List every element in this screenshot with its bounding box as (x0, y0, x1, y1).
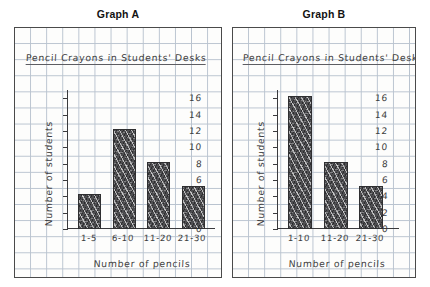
y-tick-mark (63, 180, 68, 181)
y-tick-mark (273, 229, 278, 230)
y-tick-mark (273, 180, 278, 181)
x-tick-label: 21-30 (348, 234, 393, 243)
y-tick-mark (273, 213, 278, 214)
y-tick-mark (63, 147, 68, 148)
y-tick-mark (63, 98, 68, 99)
y-tick-label: 8 (195, 159, 202, 168)
graph-a-y-axis-line (67, 90, 68, 229)
y-tick-mark (273, 196, 278, 197)
graph-b-y-axis-line (277, 90, 278, 229)
graph-b-caption: Graph B (232, 8, 416, 20)
graph-a-y-axis-title: Number of students (43, 121, 54, 227)
bar (78, 194, 101, 229)
y-tick-mark (63, 213, 68, 214)
graph-a-panel: Pencil Crayons in Students' Desks Number… (14, 27, 222, 278)
graph-a-chart-title: Pencil Crayons in Students' Desks (26, 52, 207, 65)
bar (147, 162, 170, 229)
y-tick-label: 12 (375, 126, 388, 135)
y-tick-mark (63, 164, 68, 165)
y-tick-label: 12 (189, 126, 202, 135)
y-tick-label: 6 (381, 175, 388, 184)
y-tick-mark (63, 229, 68, 230)
y-tick-mark (273, 164, 278, 165)
y-tick-mark (63, 131, 68, 132)
worksheet-page: Graph A Pencil Crayons in Students' Desk… (0, 0, 430, 287)
graph-b-plot-area: 02468101214161-1011-2021-30 (277, 90, 395, 229)
y-tick-label: 16 (375, 94, 388, 103)
y-tick-mark (273, 147, 278, 148)
graph-a-caption: Graph A (14, 8, 222, 20)
y-tick-label: 10 (375, 143, 388, 152)
y-tick-label: 8 (381, 159, 388, 168)
graph-b-panel: Pencil Crayons in Students' Desks Number… (232, 27, 416, 278)
graph-a-x-axis-title: Number of pencils (67, 258, 218, 269)
bar (324, 162, 348, 229)
y-tick-mark (273, 131, 278, 132)
graph-b-y-axis-title: Number of students (255, 121, 266, 227)
graph-a-plot-area: 02468101214161-56-1011-2021-30 (67, 90, 209, 229)
bar (359, 186, 383, 229)
y-tick-label: 14 (375, 110, 388, 119)
y-tick-mark (63, 115, 68, 116)
bar (182, 186, 205, 229)
y-tick-label: 10 (189, 143, 202, 152)
x-tick-label: 21-30 (170, 234, 215, 243)
y-tick-label: 14 (189, 110, 202, 119)
graph-b-chart-title: Pencil Crayons in Students' Desks (243, 52, 416, 65)
bar (288, 96, 312, 229)
y-tick-mark (63, 196, 68, 197)
y-tick-label: 6 (195, 175, 202, 184)
graph-b-x-axis-title: Number of pencils (273, 258, 402, 269)
y-tick-mark (273, 98, 278, 99)
bar (113, 129, 136, 229)
y-tick-label: 16 (189, 94, 202, 103)
y-tick-mark (273, 115, 278, 116)
